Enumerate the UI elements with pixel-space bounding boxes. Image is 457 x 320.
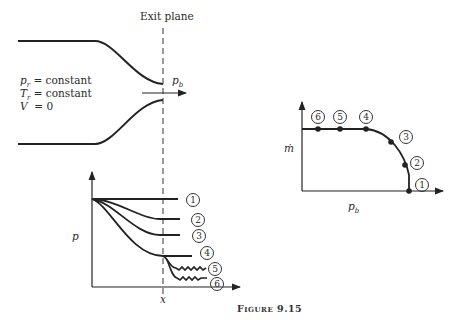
point-label-3: 3	[399, 130, 413, 144]
curve-label-4: 4	[200, 246, 214, 260]
point-1	[406, 188, 412, 194]
curve-label-3: 3	[192, 229, 206, 243]
curve-3	[92, 199, 180, 235]
pressure-xlabel: x	[160, 293, 166, 305]
point-5	[337, 126, 343, 132]
diagram-canvas	[0, 0, 457, 320]
point-2	[402, 162, 408, 168]
back-pressure-label: pb	[172, 74, 183, 91]
point-label-6: 6	[311, 110, 325, 124]
condition-velocity: V = 0	[20, 100, 53, 112]
exit-plane-label: Exit plane	[140, 10, 194, 22]
point-label-2: 2	[410, 156, 424, 170]
pressure-ylabel: p	[72, 230, 79, 242]
point-4	[363, 126, 369, 132]
figure-caption: Figure 9.15	[237, 303, 302, 314]
curve-4	[92, 199, 192, 256]
curve-label-1: 1	[186, 193, 200, 207]
point-3	[388, 139, 394, 145]
massflow-curve	[302, 129, 409, 191]
curve-label-5: 5	[208, 262, 222, 276]
point-label-4: 4	[359, 110, 373, 124]
point-6	[315, 126, 321, 132]
massflow-ylabel: ṁ	[284, 142, 294, 154]
point-label-1: 1	[415, 178, 429, 192]
point-label-5: 5	[333, 110, 347, 124]
curve-label-2: 2	[191, 213, 205, 227]
massflow-xlabel: pb	[348, 200, 359, 217]
curve-label-6: 6	[210, 277, 224, 291]
